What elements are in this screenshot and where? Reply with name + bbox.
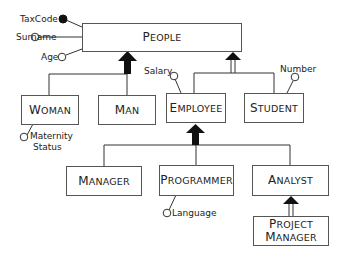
programmer-initial: P [160,173,167,187]
manager-initial: M [78,174,89,188]
project-rest: ROJECT [276,219,313,230]
entity-woman[interactable]: WOMAN [21,95,79,125]
attr-maternity-1: Maternity [30,131,73,141]
manager2-initial: M [265,230,276,244]
entity-programmer[interactable]: PROGRAMMER [159,165,234,196]
people-rest: EOPLE [150,32,182,43]
attr-maternity-2: Status [33,142,62,152]
student-rest: TUDENT [258,103,298,114]
woman-initial: W [29,103,41,117]
attr-surname: Surname [16,32,56,42]
entity-people[interactable]: PEOPLE [82,23,242,52]
attr-age: Age [41,52,58,62]
attr-salary: Salary [144,66,172,76]
entity-manager[interactable]: MANAGER [66,166,142,196]
man-rest: AN [125,105,139,116]
entity-analyst[interactable]: ANALYST [252,165,329,196]
entity-student[interactable]: STUDENT [244,93,304,123]
people-initial: P [143,30,150,44]
identifier-dot [59,15,67,23]
student-initial: S [250,101,258,115]
entity-man[interactable]: MAN [98,95,156,125]
manager-rest: ANAGER [89,176,130,187]
attr-taxcode: TaxCode [20,14,58,24]
attr-language: Language [172,208,216,218]
analyst-rest: NALYST [276,175,312,186]
entity-employee[interactable]: EMPLOYEE [166,93,226,123]
manager2-rest: ANAGER [276,232,317,243]
entity-project-manager[interactable]: PROJECT MANAGER [253,216,329,246]
employee-rest: MPLOYEE [177,103,222,114]
attr-number: Number [280,64,316,74]
woman-rest: OMAN [41,105,71,116]
programmer-rest: ROGRAMMER [168,175,233,186]
man-initial: M [115,103,126,117]
